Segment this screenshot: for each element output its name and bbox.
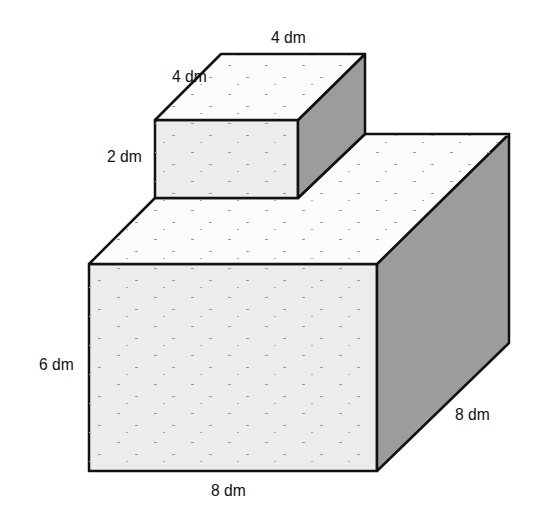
prism-drawing xyxy=(0,0,542,525)
large-box-width-label: 8 dm xyxy=(211,482,246,499)
small-box-height-label: 2 dm xyxy=(107,148,142,165)
composite-solid-diagram: 4 dm 4 dm 2 dm 6 dm 8 dm 8 dm xyxy=(0,0,542,525)
large-box-depth-label: 8 dm xyxy=(455,406,490,423)
large-box-height-label: 6 dm xyxy=(39,356,74,373)
small-box-depth-label: 4 dm xyxy=(172,68,207,85)
small-box-width-label: 4 dm xyxy=(271,29,306,46)
